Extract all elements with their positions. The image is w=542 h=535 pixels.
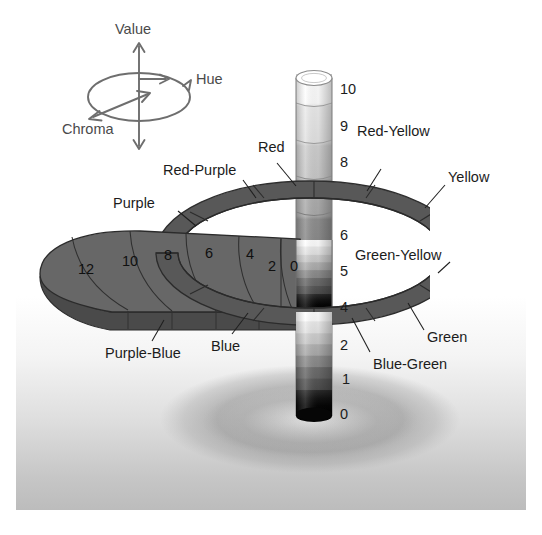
figure-container: Value Hue Chroma Red Red-Purple Purple P… [0, 0, 542, 535]
hue-label-blue: Blue [211, 339, 240, 354]
hue-label-green: Green [427, 330, 467, 345]
value-tick-6: 6 [340, 228, 348, 243]
value-column-through-ring [296, 240, 332, 312]
hue-label-red-yellow: Red-Yellow [357, 124, 430, 139]
hue-label-red: Red [258, 140, 285, 155]
value-column-lower [296, 312, 332, 421]
chroma-tick-10: 10 [122, 254, 138, 269]
value-tick-1: 1 [342, 372, 350, 387]
hue-label-purple-blue: Purple-Blue [105, 346, 181, 361]
axis-label-value: Value [115, 22, 151, 37]
chroma-tick-6: 6 [205, 246, 213, 261]
chroma-tick-2: 2 [268, 259, 276, 274]
chroma-tick-0: 0 [290, 259, 298, 274]
hue-label-red-purple: Red-Purple [163, 163, 236, 178]
hue-label-yellow: Yellow [448, 170, 489, 185]
axis-label-chroma: Chroma [62, 122, 114, 137]
value-tick-10: 10 [340, 82, 356, 97]
value-tick-9: 9 [340, 119, 348, 134]
chroma-tick-4: 4 [246, 247, 254, 262]
hue-label-purple: Purple [113, 196, 155, 211]
chroma-tick-12: 12 [78, 262, 94, 277]
value-tick-0: 0 [340, 407, 348, 422]
value-tick-2: 2 [340, 338, 348, 353]
chroma-tick-8: 8 [164, 248, 172, 263]
axis-label-hue: Hue [196, 72, 223, 87]
value-tick-5: 5 [340, 264, 348, 279]
value-tick-4: 4 [340, 300, 348, 315]
hue-label-blue-green: Blue-Green [373, 357, 447, 372]
value-tick-8: 8 [340, 155, 348, 170]
hue-label-green-yellow: Green-Yellow [355, 248, 442, 263]
